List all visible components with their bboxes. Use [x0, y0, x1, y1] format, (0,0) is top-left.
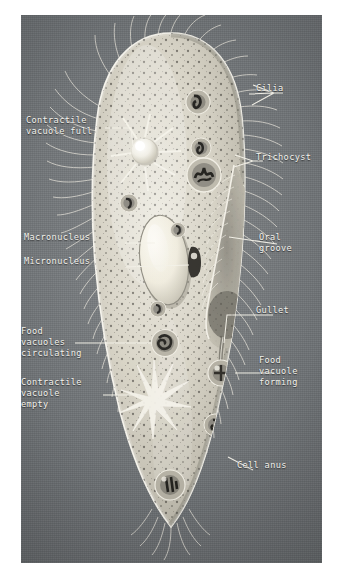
- figure-plate-canvas: Contractile vacuole full Cilia Trichocys…: [0, 0, 343, 582]
- label-food-vacuole-forming: Food vacuole forming: [259, 355, 298, 389]
- label-cell-anus: Cell anus: [237, 460, 287, 471]
- illustration-plate: Contractile vacuole full Cilia Trichocys…: [21, 15, 322, 563]
- label-micronucleus: Micronucleus: [24, 256, 90, 267]
- label-oral-groove: Oral groove: [259, 232, 292, 254]
- label-cilia: Cilia: [256, 83, 284, 94]
- label-contractile-vacuole-full: Contractile vacuole full: [26, 115, 92, 137]
- label-gullet: Gullet: [256, 305, 289, 316]
- label-contractile-vacuole-empty: Contractile vacuole empty: [21, 377, 82, 411]
- plate-vignette: [21, 15, 322, 563]
- label-trichocyst: Trichocyst: [256, 152, 311, 163]
- label-macronucleus: Macronucleus: [24, 232, 90, 243]
- label-food-vacuoles-circulating: Food vacuoles circulating: [21, 326, 82, 360]
